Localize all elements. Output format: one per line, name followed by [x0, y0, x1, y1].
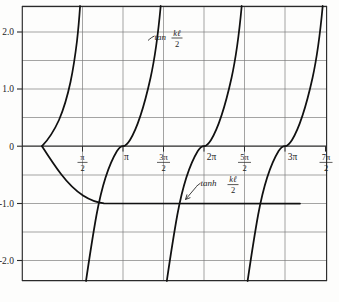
tan-annotation-denominator: 2: [175, 39, 179, 49]
xtick-label-3pi-over-2-denominator: 2: [161, 163, 165, 173]
y-axis-labels: 2.0 1.0 0 -1.0 -2.0: [0, 27, 14, 266]
xtick-label-3pi: 3π: [288, 152, 298, 162]
plot-canvas: 2.0 1.0 0 -1.0 -2.0 π 2 π: [0, 0, 339, 302]
xtick-label-2pi: 2π: [207, 152, 217, 162]
ytick-label-1: 1.0: [2, 84, 14, 94]
xtick-label-pi: π: [124, 152, 129, 162]
xtick-label-3pi-over-2-numerator: 3π: [159, 152, 168, 162]
ytick-label-2: 2.0: [2, 27, 14, 37]
xtick-label-7pi-over-2-numerator: 7π: [322, 152, 331, 162]
xtick-label-pi-over-2-numerator: π: [80, 152, 85, 162]
y-axis-ticks: [17, 32, 22, 261]
xtick-label-pi-over-2-denominator: 2: [80, 163, 84, 173]
xtick-label-5pi-over-2-numerator: 5π: [240, 152, 249, 162]
ytick-label-neg2: -2.0: [0, 256, 14, 266]
tanh-annotation-label: tanh: [201, 178, 218, 188]
ytick-label-0: 0: [9, 142, 14, 152]
tan-annotation-numerator: kℓ: [173, 28, 181, 38]
figure-container: 2.0 1.0 0 -1.0 -2.0 π 2 π: [0, 0, 339, 302]
xtick-label-5pi-over-2-denominator: 2: [242, 163, 246, 173]
tan-annotation-label: tan: [155, 32, 167, 42]
tanh-annotation-denominator: 2: [231, 185, 235, 195]
xtick-label-7pi-over-2-denominator: 2: [324, 163, 328, 173]
tanh-annotation-numerator: kℓ: [229, 174, 237, 184]
ytick-label-neg1: -1.0: [0, 199, 14, 209]
